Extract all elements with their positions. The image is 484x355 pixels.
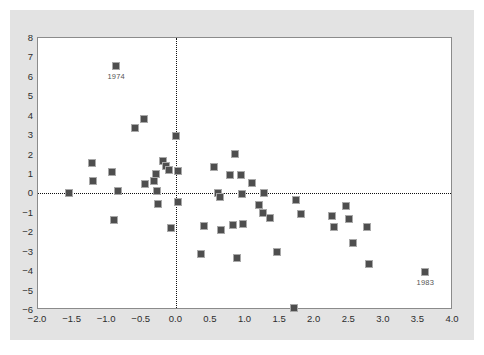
- data-point: [112, 62, 120, 70]
- data-point-label: 1974: [107, 72, 125, 81]
- plot-area: 19741983: [38, 38, 451, 308]
- data-point: [88, 159, 96, 167]
- y-axis-tick-label: 5: [28, 90, 33, 101]
- y-axis-tick-label: 4: [28, 109, 33, 120]
- x-axis-tick-label: 2.0: [307, 313, 320, 324]
- x-axis-tick-label: −1.5: [62, 313, 81, 324]
- y-axis-tick-label: 3: [28, 129, 33, 140]
- data-point: [238, 190, 246, 198]
- data-point: [197, 250, 205, 258]
- data-point: [65, 189, 73, 197]
- data-point: [273, 248, 281, 256]
- plot-frame: 19741983: [37, 37, 452, 309]
- scatter-plot-figure: 876543210−1−2−3−4−5−6 19741983 −2.0−1.5−…: [0, 0, 484, 355]
- data-point: [216, 193, 224, 201]
- data-point: [231, 150, 239, 158]
- data-point: [297, 210, 305, 218]
- data-point: [363, 223, 371, 231]
- data-point: [165, 166, 173, 174]
- data-point: [114, 187, 122, 195]
- y-axis-tick-label: 0: [28, 187, 33, 198]
- x-axis-tick-label: 0.5: [203, 313, 216, 324]
- y-axis-tick-label: 8: [28, 32, 33, 43]
- data-point: [154, 200, 162, 208]
- data-point: [349, 239, 357, 247]
- data-point: [167, 224, 175, 232]
- x-axis-tick-label: 2.5: [342, 313, 355, 324]
- y-axis-tick-label: −4: [22, 265, 33, 276]
- data-point: [365, 260, 373, 268]
- x-axis-tick-label: 0.0: [169, 313, 182, 324]
- data-point: [342, 202, 350, 210]
- data-point: [131, 124, 139, 132]
- data-point: [153, 187, 161, 195]
- x-axis-tick-label: 1.5: [272, 313, 285, 324]
- data-point: [172, 132, 180, 140]
- data-point: [292, 196, 300, 204]
- data-point: [260, 189, 268, 197]
- x-axis-tick-label: −2.0: [28, 313, 47, 324]
- data-point-label: 1983: [417, 278, 435, 287]
- y-axis-tick-label: −5: [22, 284, 33, 295]
- data-point: [174, 167, 182, 175]
- x-axis-tick-label: 1.0: [238, 313, 251, 324]
- data-point: [345, 215, 353, 223]
- data-point: [266, 214, 274, 222]
- data-point: [290, 304, 298, 312]
- y-axis-tick-label: 6: [28, 70, 33, 81]
- y-axis-tick-label: 2: [28, 148, 33, 159]
- y-axis-tick-label: −2: [22, 226, 33, 237]
- data-point: [152, 170, 160, 178]
- y-axis-tick-label: 1: [28, 168, 33, 179]
- data-point: [174, 198, 182, 206]
- data-point: [108, 168, 116, 176]
- y-axis-tick-label: −3: [22, 245, 33, 256]
- data-point: [226, 171, 234, 179]
- data-point: [229, 221, 237, 229]
- x-axis-tick-label: 3.0: [376, 313, 389, 324]
- x-axis-tick-label: 4.0: [445, 313, 458, 324]
- data-point: [239, 220, 247, 228]
- x-axis-tick-label: 3.5: [411, 313, 424, 324]
- data-point: [140, 115, 148, 123]
- data-point: [421, 268, 429, 276]
- data-point: [200, 222, 208, 230]
- data-point: [110, 216, 118, 224]
- y-axis-tick-label: 7: [28, 51, 33, 62]
- data-point: [141, 180, 149, 188]
- x-axis-tick-label: −1.0: [97, 313, 116, 324]
- data-point: [248, 179, 256, 187]
- x-axis-tick-labels: −2.0−1.5−1.0−0.50.00.51.01.52.02.53.03.5…: [37, 313, 452, 329]
- data-point: [328, 212, 336, 220]
- y-axis-tick-labels: 876543210−1−2−3−4−5−6: [12, 37, 33, 309]
- data-point: [89, 177, 97, 185]
- data-point: [210, 163, 218, 171]
- data-point: [217, 226, 225, 234]
- x-axis-tick-label: −0.5: [131, 313, 150, 324]
- data-point: [233, 254, 241, 262]
- data-point: [330, 223, 338, 231]
- data-point: [237, 171, 245, 179]
- y-axis-tick-label: −1: [22, 206, 33, 217]
